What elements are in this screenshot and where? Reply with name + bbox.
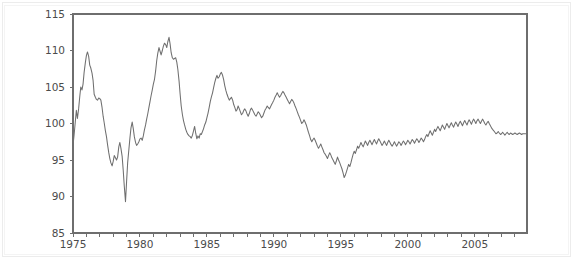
y-tick-label: 110	[45, 44, 65, 56]
y-tick-label: 100	[45, 117, 65, 129]
x-tick-label: 1975	[60, 238, 87, 250]
x-tick-label: 1985	[194, 238, 221, 250]
y-axis-tick-labels: 859095100105110115	[45, 8, 65, 239]
y-tick-label: 90	[52, 190, 65, 202]
line-chart: 859095100105110115 197519801985199019952…	[0, 0, 575, 262]
x-tick-label: 2005	[461, 238, 488, 250]
y-tick-label: 115	[45, 8, 65, 20]
x-axis-tick-labels: 1975198019851990199520002005	[60, 238, 489, 250]
x-tick-label: 1990	[261, 238, 288, 250]
chart-figure: 859095100105110115 197519801985199019952…	[0, 0, 575, 262]
x-tick-label: 1980	[127, 238, 154, 250]
x-tick-label: 1995	[327, 238, 354, 250]
x-tick-label: 2000	[394, 238, 421, 250]
y-tick-label: 85	[52, 227, 65, 239]
y-tick-label: 95	[52, 154, 65, 166]
y-tick-label: 105	[45, 81, 65, 93]
